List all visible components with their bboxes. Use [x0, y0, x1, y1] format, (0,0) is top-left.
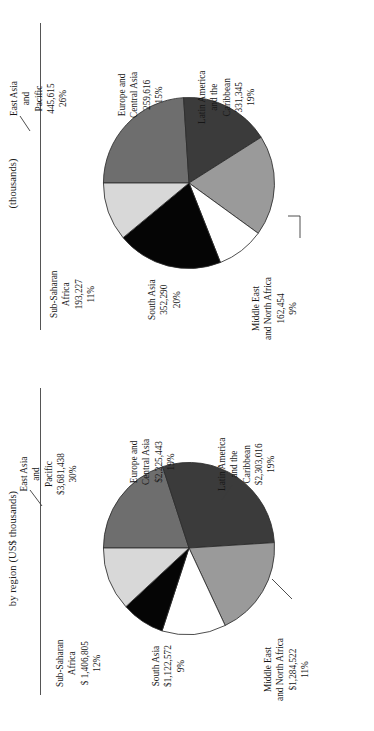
chart-2-divider-rule: [40, 23, 41, 330]
chart-2-label-europe-and-central-asia: Europe and Central Asia 259,616 15%: [116, 72, 165, 118]
chart-1-label-middle-east-and-north-africa: Middle East and North Africa $1,284,522 …: [262, 638, 311, 701]
chart-1-caption-line1: by region (US$ thousands): [6, 366, 19, 731]
document-page: by region (US$ thousands): [0, 0, 374, 731]
chart-2-label-middle-east-and-north-africa: Middle East and North Africa 162,454 9%: [250, 277, 299, 340]
chart-1-divider-rule: [40, 388, 41, 695]
chart-2-label-south-asia: South Asia 352,290 20%: [146, 279, 183, 320]
chart-2-label-latin-america-and-caribbean: Latin America and the Caribbean 331,345 …: [196, 71, 258, 124]
chart-2-label-sub-saharan-africa: Sub-Saharan Africa 193,227 11%: [48, 270, 97, 318]
chart-2-caption-line2: (thousands): [6, 1, 19, 366]
chart-2-label-east-asia-and-pacific: East Asia and Pacific 445,615 26%: [8, 81, 70, 116]
chart-1-caption: by region (US$ thousands): [6, 366, 19, 731]
figure-chart-1: by region (US$ thousands): [0, 366, 374, 731]
chart-2-caption: (thousands): [6, 1, 19, 366]
chart-1-label-sub-saharan-africa: Sub-Saharan Africa $ 1,406,805 12%: [54, 639, 103, 687]
chart-1-label-europe-and-central-asia: Europe and Central Asia $2,225,443 19%: [128, 439, 177, 485]
chart-1-label-east-asia-and-pacific: East Asia and Pacific $3,681,438 30%: [18, 453, 80, 495]
figure-chart-2: (thousands): [0, 1, 374, 366]
chart-1-label-south-asia: South Asia $1,122,572 9%: [150, 645, 187, 687]
chart-1-label-latin-america-and-caribbean: Latin America and the Caribbean $2,303,0…: [216, 438, 278, 491]
